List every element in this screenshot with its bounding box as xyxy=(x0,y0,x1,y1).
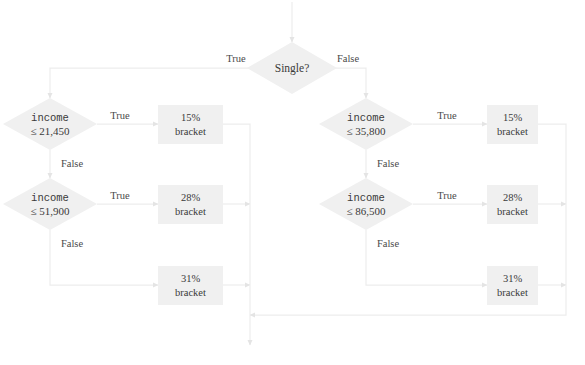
flowchart-canvas: Single? income ≤ 21,450 15% bracket inco… xyxy=(0,0,585,365)
right-d2-line2: ≤ 86,500 xyxy=(346,205,386,217)
edge-single-false xyxy=(327,68,366,98)
left-d2-line1: income xyxy=(31,192,69,204)
single-label: Single? xyxy=(275,62,310,75)
left-d1-line2: ≤ 21,450 xyxy=(30,125,70,137)
label-right-d2-false: False xyxy=(377,238,400,249)
label-right-d1-true: True xyxy=(437,110,457,121)
right-r3-shape xyxy=(487,266,538,305)
label-right-d1-false: False xyxy=(377,158,400,169)
label-single-false: False xyxy=(337,53,360,64)
node-left-d1[interactable]: income ≤ 21,450 xyxy=(3,98,97,150)
node-left-r3[interactable]: 31% bracket xyxy=(158,266,223,305)
edge-label-layer: True False True False True False True Fa… xyxy=(61,53,457,249)
node-right-d2[interactable]: income ≤ 86,500 xyxy=(319,178,413,230)
node-right-r1[interactable]: 15% bracket xyxy=(487,105,538,144)
right-r3-line1: 31% xyxy=(503,273,523,284)
edge-single-true xyxy=(50,68,257,98)
right-r2-line1: 28% xyxy=(503,192,523,203)
node-left-r2[interactable]: 28% bracket xyxy=(158,185,223,224)
edge-right-r1-merge xyxy=(538,124,566,204)
flowchart-svg: Single? income ≤ 21,450 15% bracket inco… xyxy=(0,0,585,365)
node-right-r3[interactable]: 31% bracket xyxy=(487,266,538,305)
node-right-r2[interactable]: 28% bracket xyxy=(487,185,538,224)
left-r2-shape xyxy=(158,185,223,224)
left-d1-shape xyxy=(3,98,97,150)
label-right-d2-true: True xyxy=(437,190,457,201)
node-right-d1[interactable]: income ≤ 35,800 xyxy=(319,98,413,150)
left-r1-line1: 15% xyxy=(181,112,201,123)
label-single-true: True xyxy=(226,53,246,64)
left-d1-line1: income xyxy=(31,112,69,124)
right-r1-line2: bracket xyxy=(497,126,528,137)
right-r1-line1: 15% xyxy=(503,112,523,123)
right-d1-line2: ≤ 35,800 xyxy=(346,125,386,137)
left-d2-shape xyxy=(3,178,97,230)
left-d2-line2: ≤ 51,900 xyxy=(30,205,70,217)
left-r3-shape xyxy=(158,266,223,305)
label-left-d2-true: True xyxy=(110,190,130,201)
label-left-d1-false: False xyxy=(61,158,84,169)
left-r1-shape xyxy=(158,105,223,144)
left-r3-line1: 31% xyxy=(181,273,201,284)
edge-left-r1-merge xyxy=(223,124,250,204)
left-r1-line2: bracket xyxy=(175,126,206,137)
right-d2-line1: income xyxy=(347,192,385,204)
node-layer: Single? income ≤ 21,450 15% bracket inco… xyxy=(3,42,538,305)
node-left-d2[interactable]: income ≤ 51,900 xyxy=(3,178,97,230)
right-r2-shape xyxy=(487,185,538,224)
label-left-d2-false: False xyxy=(61,238,84,249)
node-single[interactable]: Single? xyxy=(247,42,337,94)
right-d1-line1: income xyxy=(347,112,385,124)
right-r2-line2: bracket xyxy=(497,206,528,217)
right-r3-line2: bracket xyxy=(497,287,528,298)
right-r1-shape xyxy=(487,105,538,144)
right-d2-shape xyxy=(319,178,413,230)
left-r2-line2: bracket xyxy=(175,206,206,217)
node-left-r1[interactable]: 15% bracket xyxy=(158,105,223,144)
left-r3-line2: bracket xyxy=(175,287,206,298)
left-r2-line1: 28% xyxy=(181,192,201,203)
label-left-d1-true: True xyxy=(110,110,130,121)
right-d1-shape xyxy=(319,98,413,150)
